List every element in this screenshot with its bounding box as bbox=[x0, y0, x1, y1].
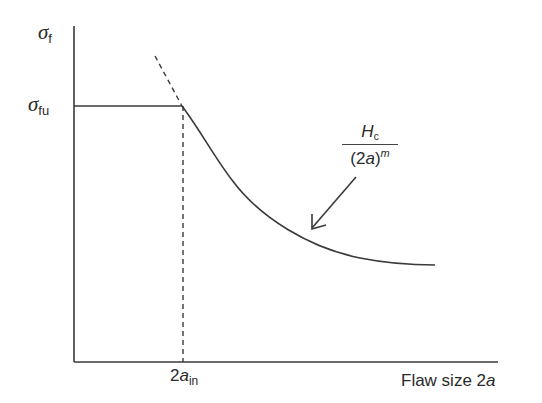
x-tick-label: 2ain bbox=[170, 366, 198, 388]
annotation-arrow bbox=[312, 177, 356, 228]
level-label: σfu bbox=[28, 92, 49, 118]
denom-var: a bbox=[365, 149, 374, 168]
formula-denominator: (2a)m bbox=[342, 145, 398, 169]
denom-exp: m bbox=[381, 147, 390, 159]
diagram-canvas bbox=[0, 0, 542, 403]
subscript: fu bbox=[38, 103, 49, 118]
x-axis-text: Flaw size 2 bbox=[401, 371, 486, 390]
sigma-symbol: σ bbox=[38, 20, 48, 44]
x-axis-label: Flaw size 2a bbox=[401, 371, 496, 391]
denom-base: (2 bbox=[350, 149, 365, 168]
tick-var: a bbox=[179, 366, 188, 385]
y-axis-label: σf bbox=[38, 20, 52, 46]
tick-subscript: in bbox=[189, 374, 198, 388]
curve-extension-dashed bbox=[155, 56, 182, 106]
sigma-symbol: σ bbox=[28, 92, 38, 116]
x-axis-var: a bbox=[486, 371, 495, 390]
subscript: f bbox=[48, 31, 52, 46]
formula-numerator: Hc bbox=[342, 122, 398, 145]
numerator-var: H bbox=[361, 122, 373, 141]
curve-formula: Hc (2a)m bbox=[342, 122, 398, 169]
numerator-sub: c bbox=[374, 131, 379, 142]
